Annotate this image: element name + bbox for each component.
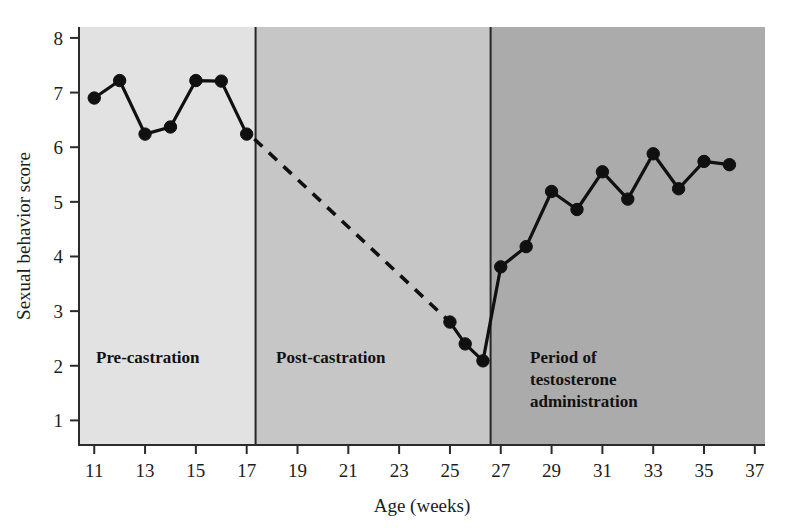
sexual-behavior-score-line-chart: 12345678 1113151719212325272931333537 Ag… [0,0,798,531]
data-point-marker [723,158,735,170]
data-point-marker [240,128,252,140]
y-tick-label-2: 2 [54,356,64,377]
x-tick-label-25: 25 [440,460,459,481]
band-label-testosterone-line2: testosterone [530,370,617,389]
data-point-marker [113,74,125,86]
data-point-marker [672,183,684,195]
y-tick-label-5: 5 [54,192,64,213]
x-tick-label-21: 21 [339,460,358,481]
data-point-marker [622,193,634,205]
x-axis-ticks [94,445,755,454]
x-tick-label-23: 23 [390,460,409,481]
data-point-marker [444,316,456,328]
x-tick-label-37: 37 [745,460,764,481]
data-point-marker [520,240,532,252]
data-point-marker [459,338,471,350]
x-tick-label-29: 29 [542,460,561,481]
x-tick-label-35: 35 [695,460,714,481]
data-point-marker [139,128,151,140]
x-tick-label-27: 27 [491,460,510,481]
x-tick-label-11: 11 [85,460,103,481]
data-point-marker [596,166,608,178]
band-label-testosterone-line3: administration [530,392,638,411]
x-tick-label-17: 17 [237,460,256,481]
y-tick-label-1: 1 [54,410,64,431]
data-point-marker [698,155,710,167]
x-tick-label-31: 31 [593,460,612,481]
band-post-castration [256,27,491,445]
data-point-marker [88,92,100,104]
data-point-marker [545,185,557,197]
y-tick-label-7: 7 [54,83,64,104]
data-point-marker [164,121,176,133]
band-group [79,27,765,445]
x-tick-label-33: 33 [644,460,663,481]
y-axis-title: Sexual behavior score [13,152,34,320]
band-label-post-castration: Post-castration [276,348,386,367]
y-tick-label-3: 3 [54,301,64,322]
y-axis-tick-labels: 12345678 [54,28,64,431]
data-point-marker [215,75,227,87]
x-axis-tick-labels: 1113151719212325272931333537 [85,460,764,481]
chart-figure: 12345678 1113151719212325272931333537 Ag… [0,0,798,531]
data-point-marker [477,355,489,367]
data-point-marker [190,74,202,86]
x-axis-title: Age (weeks) [374,495,471,517]
band-label-testosterone-line1: Period of [530,348,597,367]
x-tick-label-13: 13 [136,460,155,481]
data-point-marker [495,261,507,273]
x-tick-label-19: 19 [288,460,307,481]
data-point-marker [571,203,583,215]
y-tick-label-8: 8 [54,28,64,49]
band-label-pre-castration: Pre-castration [96,348,200,367]
y-axis-ticks [70,38,79,420]
y-tick-label-6: 6 [54,137,64,158]
x-tick-label-15: 15 [186,460,205,481]
data-point-marker [647,148,659,160]
y-tick-label-4: 4 [54,246,64,267]
